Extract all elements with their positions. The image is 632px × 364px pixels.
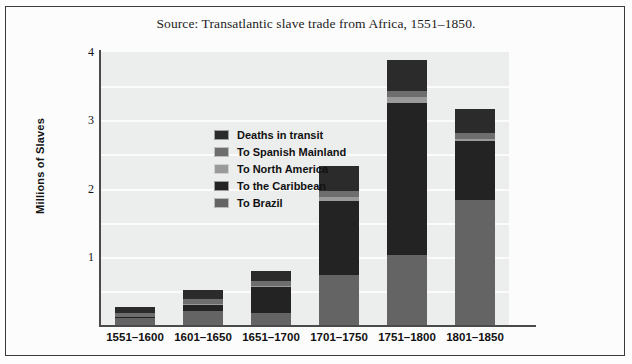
legend-item-to-the-caribbean: To the Caribbean [214, 177, 394, 194]
legend-swatch-icon [214, 181, 229, 191]
y-tick-label: 1 [66, 250, 94, 265]
x-axis-ticks: 1551–16001601–16501651–17001701–17501751… [101, 331, 509, 353]
legend-swatch-icon [214, 198, 229, 208]
x-tick-label: 1751–1800 [373, 331, 441, 343]
y-tick-label: 2 [66, 182, 94, 197]
bar-segment [115, 318, 156, 325]
gridline [101, 86, 509, 88]
legend-swatch-icon [214, 164, 229, 174]
plot-area: Deaths in transitTo Spanish MainlandTo N… [101, 52, 509, 325]
legend-item-to-brazil: To Brazil [214, 194, 394, 211]
legend-swatch-icon [214, 130, 229, 140]
chart-legend: Deaths in transitTo Spanish MainlandTo N… [214, 126, 394, 211]
bar-segment [455, 141, 496, 200]
x-tick-label: 1601–1650 [169, 331, 237, 343]
bar-segment [319, 275, 360, 325]
x-tick-label: 1801–1850 [441, 331, 509, 343]
bar-segment [319, 201, 360, 275]
bar-1551-1600 [115, 307, 156, 325]
legend-item-to-spanish-mainland: To Spanish Mainland [214, 143, 394, 160]
y-axis-ticks: 1234 [62, 0, 94, 364]
bar-segment [251, 271, 292, 281]
y-tick-label: 4 [66, 45, 94, 60]
legend-item-label: To Brazil [237, 197, 283, 209]
gridline [101, 257, 509, 259]
bar-1651-1700 [251, 271, 292, 325]
gridline [101, 120, 509, 122]
bar-1801-1850 [455, 109, 496, 325]
legend-swatch-icon [214, 147, 229, 157]
legend-item-deaths-in-transit: Deaths in transit [214, 126, 394, 143]
bar-segment [251, 313, 292, 325]
legend-item-label: To North America [237, 163, 328, 175]
gridline [101, 291, 509, 293]
bar-segment [183, 305, 224, 312]
bar-segment [387, 255, 428, 325]
bar-segment [455, 200, 496, 325]
bar-segment [455, 109, 496, 133]
bar-segment [183, 290, 224, 300]
legend-item-label: To Spanish Mainland [237, 146, 346, 158]
x-tick-label: 1651–1700 [237, 331, 305, 343]
figure-caption: Source: Transatlantic slave trade from A… [0, 16, 632, 32]
figure-container: Source: Transatlantic slave trade from A… [0, 0, 632, 364]
bar-segment [183, 311, 224, 325]
bar-segment [251, 287, 292, 312]
legend-item-to-north-america: To North America [214, 160, 394, 177]
y-axis-label: Millions of Slaves [34, 96, 46, 236]
x-tick-label: 1551–1600 [101, 331, 169, 343]
legend-item-label: To the Caribbean [237, 180, 326, 192]
y-axis-line [99, 50, 101, 327]
gridline [101, 223, 509, 225]
y-tick-label: 3 [66, 113, 94, 128]
bar-segment [455, 133, 496, 140]
bar-1601-1650 [183, 290, 224, 325]
x-axis-line [99, 325, 536, 327]
x-tick-label: 1701–1750 [305, 331, 373, 343]
legend-item-label: Deaths in transit [237, 129, 323, 141]
bar-segment [387, 60, 428, 91]
